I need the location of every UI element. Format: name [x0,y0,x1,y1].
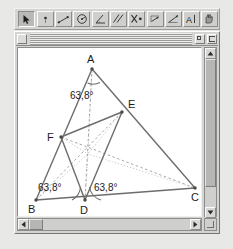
text-a-icon: A [185,13,198,25]
titlebar-stripes [30,33,192,45]
angle-label-a[interactable]: 63,8° [70,90,93,101]
document-window: A B C D E F 63,8° 63,8° 63,8° [14,31,220,234]
scroll-down-arrow[interactable] [205,207,216,218]
toolbar-group-select [18,11,36,27]
dashed-cevians [36,69,195,200]
resize-grip[interactable] [204,218,217,231]
geometry-canvas[interactable]: A B C D E F 63,8° 63,8° 63,8° [17,47,202,217]
point-label-b: B [28,203,35,215]
horizontal-scroll-track[interactable] [43,219,190,230]
point-label-a: A [87,53,95,65]
application-window: A [0,0,233,249]
line-segment-icon [57,14,70,25]
point-label-c: C [191,191,199,203]
svg-text:A: A [186,15,192,25]
zoom-box[interactable] [195,34,205,44]
point-tool[interactable] [37,11,54,27]
line-tool[interactable] [55,11,72,27]
geometry-construction: A B C D E F 63,8° 63,8° 63,8° [18,48,201,216]
pointer-hand-tool[interactable] [201,11,218,27]
arrow-cursor-icon [21,14,32,25]
point-label-d: D [80,204,88,216]
scroll-left-arrow[interactable] [18,219,29,230]
horizontal-scrollbar[interactable] [17,218,202,231]
toolbar-group-measure [92,11,146,27]
collapse-box[interactable] [207,34,217,44]
horizontal-scroll-thumb[interactable] [29,219,43,230]
point-label-f: F [47,131,54,143]
angle-tool[interactable] [92,11,109,27]
translate-arrow-icon [149,13,162,25]
point-icon [40,14,51,25]
reflect-icon [167,13,180,25]
reflect-tool[interactable] [165,11,182,27]
x-marker-icon [130,13,143,25]
point-label-e: E [128,98,135,110]
text-tool[interactable]: A [183,11,200,27]
toolbar-group-primitives [37,11,91,27]
perpendicular-tool[interactable] [110,11,127,27]
perpendicular-lines-icon [112,13,125,25]
translate-tool[interactable] [147,11,164,27]
circle-tool[interactable] [73,11,90,27]
transform-tool[interactable] [128,11,145,27]
vertical-scrollbar[interactable] [204,47,217,217]
arrow-select-tool[interactable] [18,11,35,27]
angle-label-d-left[interactable]: 63,8° [38,182,61,193]
close-box[interactable] [17,34,27,44]
vertical-scroll-track[interactable] [205,59,216,207]
dotted-construction-lines [36,69,195,200]
hand-icon [203,13,216,25]
angle-label-d-right[interactable]: 63,8° [94,182,117,193]
angle-icon [94,13,107,25]
drawing-toolbar: A [14,8,220,30]
triangle-abc [36,69,195,200]
scroll-up-arrow[interactable] [205,48,216,59]
circle-icon [76,13,88,25]
scroll-right-arrow[interactable] [190,219,201,230]
vertical-scroll-thumb[interactable] [205,59,216,187]
toolbar-group-transform: A [147,11,219,27]
window-titlebar[interactable] [16,33,218,46]
